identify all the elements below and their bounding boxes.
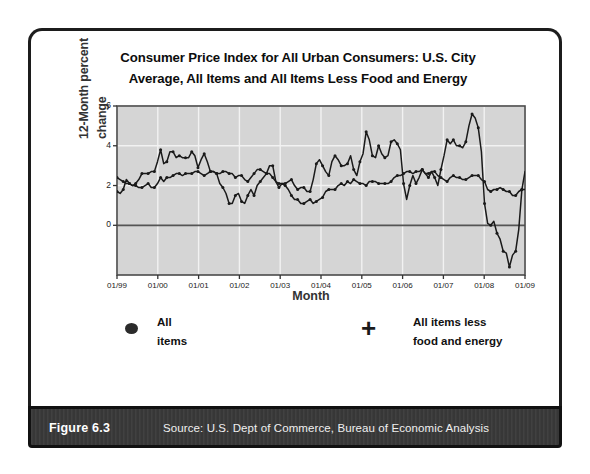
legend-label-line2: food and energy bbox=[413, 332, 502, 351]
x-axis-tick: 01/00 bbox=[141, 281, 175, 290]
x-axis-tick: 01/09 bbox=[508, 281, 542, 290]
legend-label-line1: All items less bbox=[413, 313, 502, 332]
x-axis-tick: 01/08 bbox=[467, 281, 501, 290]
x-axis-tick: 01/99 bbox=[100, 281, 134, 290]
figure-footer: Figure 6.3 Source: U.S. Dept of Commerce… bbox=[28, 406, 562, 448]
x-axis-tick: 01/04 bbox=[304, 281, 338, 290]
legend-label: All items lessfood and energy bbox=[413, 313, 502, 350]
y-axis-tick: 2 bbox=[95, 180, 111, 190]
figure-number: Figure 6.3 bbox=[49, 421, 110, 435]
chart-plot bbox=[31, 31, 565, 411]
x-axis-tick: 01/05 bbox=[345, 281, 379, 290]
figure-card: Consumer Price Index for All Urban Consu… bbox=[28, 28, 562, 408]
x-axis-label: Month bbox=[251, 289, 371, 303]
x-axis-tick: 01/03 bbox=[263, 281, 297, 290]
legend-marker-dot bbox=[125, 323, 138, 334]
x-axis-tick: 01/07 bbox=[426, 281, 460, 290]
chart-area: 12-Month percent change Month 024601/990… bbox=[31, 31, 565, 411]
x-axis-tick: 01/06 bbox=[386, 281, 420, 290]
x-axis-tick: 01/02 bbox=[222, 281, 256, 290]
y-axis-tick: 6 bbox=[95, 100, 111, 110]
figure-source: Source: U.S. Dept of Commerce, Bureau of… bbox=[163, 422, 489, 434]
x-axis-tick: 01/01 bbox=[182, 281, 216, 290]
legend-label-line2: items bbox=[157, 332, 187, 351]
y-axis-tick: 0 bbox=[95, 219, 111, 229]
legend-label: Allitems bbox=[157, 313, 187, 350]
figure-slide: Consumer Price Index for All Urban Consu… bbox=[28, 28, 562, 448]
legend-marker-plus: + bbox=[361, 315, 376, 341]
y-axis-tick: 4 bbox=[95, 140, 111, 150]
legend-label-line1: All bbox=[157, 313, 187, 332]
